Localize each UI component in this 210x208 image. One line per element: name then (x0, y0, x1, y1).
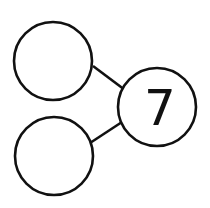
whole-value: 7 (144, 79, 176, 137)
part-circle-top[interactable] (14, 22, 92, 100)
connector-top (93, 66, 125, 90)
connector-bottom (90, 122, 122, 143)
number-bond-diagram: 7 (0, 0, 210, 208)
part-circle-bottom[interactable] (15, 117, 93, 195)
